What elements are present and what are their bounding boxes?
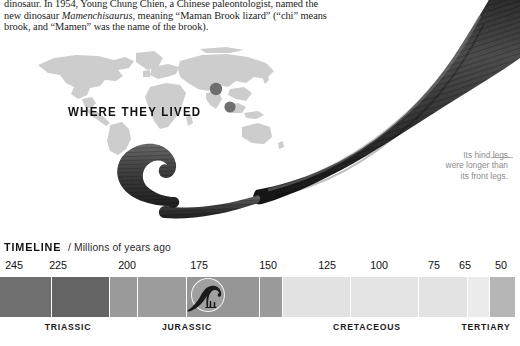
article-line-2-post: , meaning “Maman Brook lizard” (“chi” me…: [133, 10, 327, 21]
timeline-seg-2: [52, 277, 109, 317]
timeline-tick-175: 175: [190, 258, 208, 271]
timeline-tick-65: 65: [459, 258, 471, 271]
map-title: WHERE THEY LIVED: [68, 105, 201, 119]
timeline-tick-225: 225: [49, 258, 67, 271]
timeline-units: / Millions of years ago: [68, 242, 171, 253]
timeline-seg-7: [283, 277, 350, 317]
callout-line-3: its front legs.: [420, 171, 508, 181]
species-name: Mamenchisaurus: [62, 10, 133, 21]
article-body-text: dinosaur. In 1954, Young Chung Chien, a …: [4, 0, 334, 33]
map-dot-south: [224, 101, 235, 112]
article-line-2-pre: new dinosaur: [4, 10, 62, 21]
timeline-seg-10: [468, 277, 489, 317]
timeline-seg-1: [0, 277, 51, 317]
map-landmasses: [38, 47, 284, 155]
hind-legs-callout: Its hind legs were longer than its front…: [420, 150, 508, 181]
timeline-tick-200: 200: [118, 258, 136, 271]
callout-line-2: were longer than: [420, 160, 508, 170]
timeline-tick-245: 245: [5, 258, 23, 271]
map-dot-north: [210, 83, 222, 95]
timeline-tick-50: 50: [495, 258, 507, 271]
timeline-seg-9: [419, 277, 467, 317]
article-line-3: brook, and “Mamen” was the name of the b…: [4, 21, 334, 33]
timeline-tick-100: 100: [370, 258, 388, 271]
timeline-seg-3: [110, 277, 137, 317]
timeline-bar: [0, 277, 515, 317]
period-label-triassic: TRIASSIC: [45, 322, 92, 332]
article-line-2: new dinosaur Mamenchisaurus, meaning “Ma…: [4, 10, 334, 22]
timeline-tick-labels: 245225200175150125100756550: [0, 258, 515, 273]
timeline-units-text: Millions of years ago: [74, 242, 171, 253]
timeline-seg-8: [351, 277, 418, 317]
timeline-tick-75: 75: [428, 258, 440, 271]
sauropod-silhouette-icon: [186, 277, 230, 317]
timeline-period-labels: TRIASSICJURASSICCRETACEOUSTERTIARY: [0, 322, 515, 338]
timeline-separator: /: [68, 242, 71, 253]
timeline-tick-125: 125: [318, 258, 336, 271]
period-label-cretaceous: CRETACEOUS: [333, 322, 401, 332]
timeline-header: TIMELINE/ Millions of years ago: [4, 237, 171, 255]
timeline-seg-11: [490, 277, 515, 317]
period-label-jurassic: JURASSIC: [162, 322, 212, 332]
world-map: [30, 47, 285, 155]
article-line-1: dinosaur. In 1954, Young Chung Chien, a …: [4, 0, 334, 10]
period-label-tertiary: TERTIARY: [461, 322, 510, 332]
timeline-label: TIMELINE: [4, 241, 61, 253]
timeline-seg-4: [138, 277, 186, 317]
timeline-tick-150: 150: [259, 258, 277, 271]
sauropod-marker: [186, 277, 230, 317]
timeline-seg-6: [260, 277, 282, 317]
callout-line-1: Its hind legs: [420, 150, 508, 160]
